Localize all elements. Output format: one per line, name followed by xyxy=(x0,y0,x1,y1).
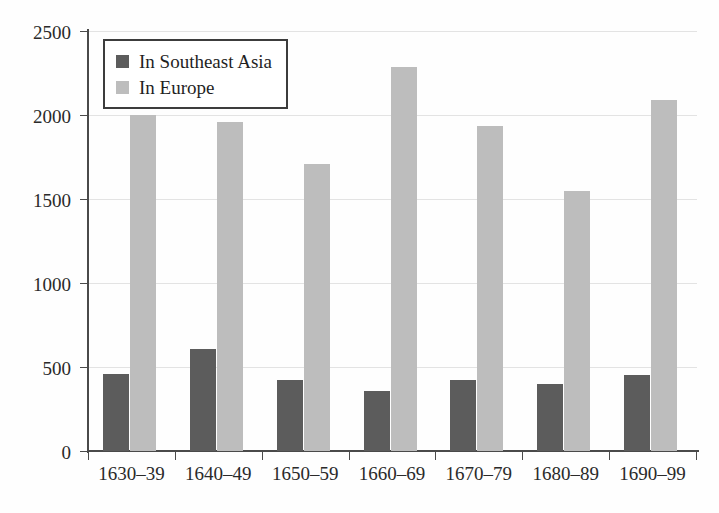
x-tick-label: 1650–59 xyxy=(272,464,339,485)
bar-europe xyxy=(564,191,590,451)
bar-chart: 05001000150020002500 1630–391640–491650–… xyxy=(0,0,719,513)
x-tick xyxy=(435,451,436,460)
legend-swatch-southeast-asia xyxy=(116,55,129,68)
chart-legend: In Southeast Asia In Europe xyxy=(103,39,288,109)
bar-europe xyxy=(304,164,330,451)
bar-europe xyxy=(651,100,677,451)
y-tick-label: 1000 xyxy=(33,274,71,293)
x-tick-label: 1640–49 xyxy=(185,464,252,485)
bar-southeast-asia xyxy=(103,374,129,451)
legend-label-europe: In Europe xyxy=(139,78,214,97)
bar-southeast-asia xyxy=(624,375,650,451)
x-tick xyxy=(696,451,697,460)
bar-europe xyxy=(391,67,417,451)
bar-southeast-asia xyxy=(277,380,303,451)
bar-europe xyxy=(217,122,243,451)
x-tick-label: 1690–99 xyxy=(619,464,686,485)
bar-europe xyxy=(477,126,503,451)
x-tick xyxy=(522,451,523,460)
x-tick-label: 1630–39 xyxy=(98,464,165,485)
y-tick-label: 0 xyxy=(62,442,72,461)
legend-swatch-europe xyxy=(116,81,129,94)
x-tick xyxy=(262,451,263,460)
bar-europe xyxy=(130,115,156,451)
y-tick-label: 2500 xyxy=(33,22,71,41)
legend-item-southeast-asia: In Southeast Asia xyxy=(116,48,272,74)
x-tick xyxy=(609,451,610,460)
x-tick xyxy=(88,451,89,460)
legend-label-southeast-asia: In Southeast Asia xyxy=(139,52,272,71)
y-tick-label: 500 xyxy=(43,358,72,377)
x-tick-label: 1680–89 xyxy=(532,464,599,485)
y-tick-label: 2000 xyxy=(33,106,71,125)
bar-southeast-asia xyxy=(537,384,563,451)
x-tick xyxy=(349,451,350,460)
bar-southeast-asia xyxy=(450,380,476,451)
bar-southeast-asia xyxy=(190,349,216,451)
y-tick-label: 1500 xyxy=(33,190,71,209)
x-tick-label: 1670–79 xyxy=(446,464,513,485)
x-tick-label: 1660–69 xyxy=(359,464,426,485)
x-tick xyxy=(175,451,176,460)
legend-item-europe: In Europe xyxy=(116,74,272,100)
bar-southeast-asia xyxy=(364,391,390,451)
